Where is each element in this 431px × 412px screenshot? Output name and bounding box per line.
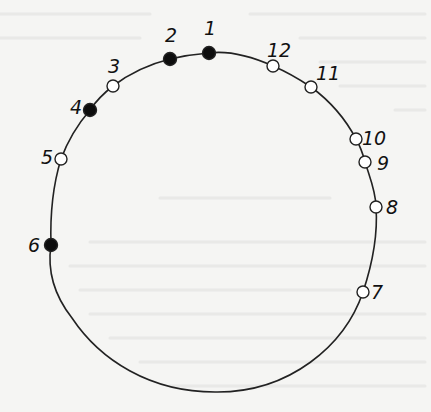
filled-point-4 xyxy=(84,104,97,117)
filled-point-2 xyxy=(164,53,177,66)
point-label-5: 5 xyxy=(41,146,53,168)
open-point-3 xyxy=(107,80,119,92)
point-label-4: 4 xyxy=(70,96,82,118)
open-point-5 xyxy=(55,153,67,165)
background-texture xyxy=(0,14,425,386)
point-label-8: 8 xyxy=(386,196,398,218)
point-label-11: 11 xyxy=(316,62,340,84)
points-layer xyxy=(45,47,383,299)
point-label-9: 9 xyxy=(377,152,389,174)
open-point-12 xyxy=(267,60,279,72)
point-label-6: 6 xyxy=(28,234,40,256)
diagram-canvas: 123456789101112 xyxy=(0,0,431,412)
point-label-10: 10 xyxy=(362,127,386,149)
open-point-9 xyxy=(359,156,371,168)
circle-diagram: 123456789101112 xyxy=(0,0,431,412)
point-label-3: 3 xyxy=(108,55,120,77)
circle-outline xyxy=(50,52,376,392)
point-label-7: 7 xyxy=(371,281,383,303)
open-point-8 xyxy=(370,201,382,213)
labels-layer: 123456789101112 xyxy=(28,17,398,303)
point-label-12: 12 xyxy=(267,39,291,61)
point-label-2: 2 xyxy=(165,24,177,46)
point-label-1: 1 xyxy=(204,17,216,39)
filled-point-1 xyxy=(203,47,216,60)
filled-point-6 xyxy=(45,239,58,252)
open-point-7 xyxy=(357,286,369,298)
open-point-10 xyxy=(350,133,362,145)
